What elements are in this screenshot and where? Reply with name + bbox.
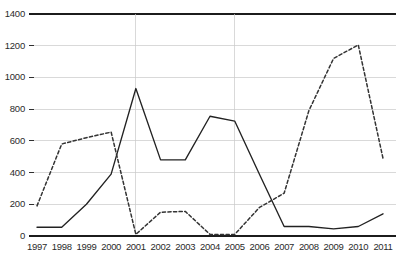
chart-container: 0200400600800100012001400 19971998199920…: [0, 0, 396, 258]
y-tick-label-0: 0: [0, 230, 25, 241]
vertical-gridlines: [136, 14, 235, 236]
horizontal-gridlines: [29, 14, 396, 204]
data-series-layer: [37, 45, 383, 234]
y-tick-label-1200: 1200: [0, 40, 25, 51]
tick-marks: [29, 14, 34, 236]
y-tick-label-200: 200: [0, 198, 25, 209]
x-tick-label-2011: 2011: [366, 241, 396, 252]
y-tick-label-1000: 1000: [0, 71, 25, 82]
line-chart-plot: [0, 0, 396, 258]
y-tick-label-400: 400: [0, 167, 25, 178]
y-tick-label-1400: 1400: [0, 8, 25, 19]
y-tick-label-600: 600: [0, 135, 25, 146]
series-line-series-solid: [37, 89, 383, 229]
y-tick-label-800: 800: [0, 103, 25, 114]
series-line-series-dashed: [37, 45, 383, 234]
